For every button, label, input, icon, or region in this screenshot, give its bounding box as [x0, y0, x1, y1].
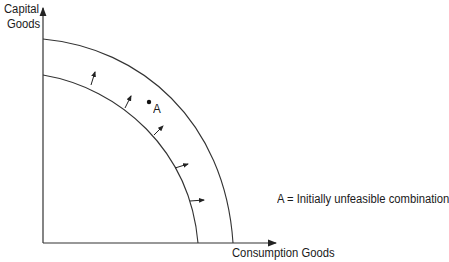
shift-arrow	[91, 72, 95, 85]
point-a-label: A	[153, 101, 161, 116]
expanded-ppf-curve	[43, 39, 233, 243]
shift-arrow	[175, 164, 188, 168]
shift-arrow	[190, 200, 204, 201]
x-axis-label: Consumption Goods	[232, 246, 335, 261]
y-axis-label-line2: Goods	[7, 17, 40, 32]
y-axis-label-line1: Capital	[4, 2, 39, 17]
shift-arrow	[154, 126, 163, 135]
original-ppf-curve	[43, 75, 198, 243]
point-a	[147, 100, 151, 104]
shift-arrow	[125, 96, 131, 108]
legend-text: A = Initially unfeasible combination	[277, 192, 449, 207]
